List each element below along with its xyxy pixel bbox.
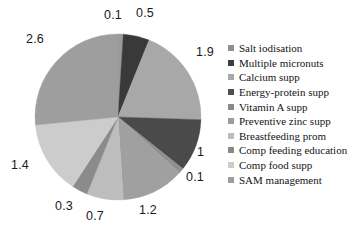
legend-item-label: Breastfeeding prom [239, 130, 326, 142]
legend-item[interactable]: Multiple micronuts [228, 56, 355, 71]
slice-value-label-comp-feeding-education: 0.3 [55, 199, 73, 213]
legend-item-label: Vitamin A supp [239, 101, 307, 113]
chart-legend: Salt iodisationMultiple micronutsCalcium… [228, 41, 355, 187]
legend-item-label: SAM management [239, 174, 322, 186]
legend-swatch-icon [228, 177, 234, 183]
legend-item[interactable]: Comp food supp [228, 158, 355, 173]
slice-value-label-calcium-supp: 1.9 [196, 45, 214, 59]
legend-swatch-icon [228, 118, 234, 124]
legend-item-label: Comp feeding education [239, 144, 347, 156]
legend-item[interactable]: Breastfeeding prom [228, 129, 355, 144]
legend-item[interactable]: Preventive zinc supp [228, 114, 355, 129]
legend-item-label: Salt iodisation [239, 42, 302, 54]
legend-swatch-icon [228, 89, 234, 95]
pie-slices-group [35, 34, 201, 200]
legend-item-label: Energy-protein supp [239, 86, 329, 98]
legend-item-label: Comp food supp [239, 159, 312, 171]
legend-swatch-icon [228, 60, 234, 66]
legend-item-label: Multiple micronuts [239, 57, 324, 69]
legend-swatch-icon [228, 133, 234, 139]
legend-swatch-icon [228, 74, 234, 80]
pie-chart-figure: 0.1 0.5 1.9 1 0.1 1.2 0.7 0.3 1.4 2.6 Sa… [0, 0, 355, 234]
legend-item-label: Preventive zinc supp [239, 115, 331, 127]
slice-value-label-multiple-micronuts: 0.5 [136, 6, 154, 20]
pie-slice [35, 34, 118, 125]
legend-item[interactable]: Vitamin A supp [228, 99, 355, 114]
legend-swatch-icon [228, 104, 234, 110]
legend-item[interactable]: SAM management [228, 172, 355, 187]
slice-value-label-preventive-zinc-supp: 1.2 [139, 203, 157, 217]
pie-plot-area: 0.1 0.5 1.9 1 0.1 1.2 0.7 0.3 1.4 2.6 [0, 0, 210, 234]
legend-swatch-icon [228, 147, 234, 153]
legend-item-label: Calcium supp [239, 71, 300, 83]
slice-value-label-energy-protein-supp: 1 [197, 145, 204, 159]
legend-swatch-icon [228, 162, 234, 168]
legend-item[interactable]: Energy-protein supp [228, 85, 355, 100]
legend-item[interactable]: Calcium supp [228, 70, 355, 85]
legend-swatch-icon [228, 45, 234, 51]
slice-value-label-sam-management: 2.6 [26, 32, 44, 46]
slice-value-label-comp-food-supp: 1.4 [11, 158, 29, 172]
slice-value-label-salt-iodisation: 0.1 [104, 8, 122, 22]
legend-item[interactable]: Comp feeding education [228, 143, 355, 158]
slice-value-label-vitamin-a-supp: 0.1 [186, 170, 204, 184]
legend-item[interactable]: Salt iodisation [228, 41, 355, 56]
slice-value-label-breastfeeding-prom: 0.7 [86, 209, 104, 223]
